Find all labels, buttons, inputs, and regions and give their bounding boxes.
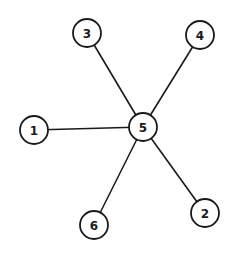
node-label: 3 xyxy=(83,27,91,41)
node-label: 5 xyxy=(139,121,147,135)
edge-5-2 xyxy=(143,127,205,213)
node-3: 3 xyxy=(73,19,101,47)
node-1: 1 xyxy=(20,116,48,144)
edges xyxy=(34,33,205,225)
node-6: 6 xyxy=(80,211,108,239)
node-label: 4 xyxy=(196,29,204,43)
node-4: 4 xyxy=(186,21,214,49)
node-label: 2 xyxy=(201,207,209,221)
node-2: 2 xyxy=(191,199,219,227)
edge-5-1 xyxy=(34,127,143,130)
node-label: 6 xyxy=(90,219,98,233)
edge-5-3 xyxy=(87,33,143,127)
star-graph-diagram: 1 2 3 4 5 6 xyxy=(0,0,238,257)
edge-5-4 xyxy=(143,35,200,127)
node-label: 1 xyxy=(30,124,38,138)
node-5: 5 xyxy=(129,113,157,141)
edge-5-6 xyxy=(94,127,143,225)
